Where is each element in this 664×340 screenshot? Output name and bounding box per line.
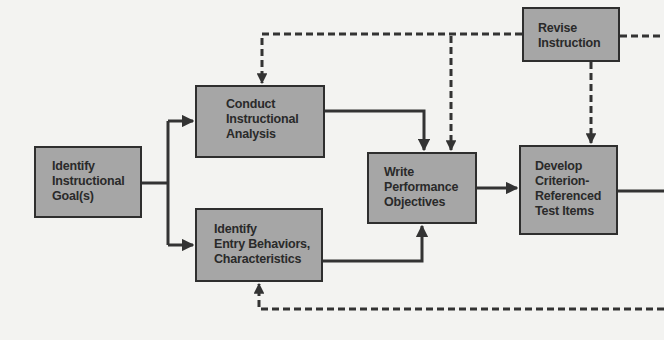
- instructional-design-flowchart: Identify Instructional Goal(s) Conduct I…: [0, 0, 664, 340]
- box-develop-criterion-referenced-test-items[interactable]: Develop Criterion- Referenced Test Items: [519, 145, 618, 235]
- box-label: Identify Instructional Goal(s): [52, 159, 124, 204]
- box-identify-instructional-goals[interactable]: Identify Instructional Goal(s): [34, 146, 142, 218]
- box-write-performance-objectives[interactable]: Write Performance Objectives: [367, 152, 477, 224]
- edge-entry-to-write: [323, 226, 422, 261]
- box-label: Develop Criterion- Referenced Test Items: [535, 159, 601, 219]
- box-revise-instruction[interactable]: Revise Instruction: [522, 7, 620, 62]
- edge-conduct-to-write: [325, 111, 424, 150]
- box-label: Revise Instruction: [538, 21, 600, 51]
- box-identify-entry-behaviors[interactable]: Identify Entry Behaviors, Characteristic…: [195, 208, 323, 282]
- dashed-feedback-to-entry: [259, 284, 664, 309]
- box-conduct-instructional-analysis[interactable]: Conduct Instructional Analysis: [195, 85, 325, 158]
- box-label: Conduct Instructional Analysis: [226, 97, 298, 142]
- dashed-revise-to-conduct: [262, 34, 522, 83]
- box-label: Identify Entry Behaviors, Characteristic…: [214, 222, 310, 267]
- box-label: Write Performance Objectives: [384, 165, 458, 210]
